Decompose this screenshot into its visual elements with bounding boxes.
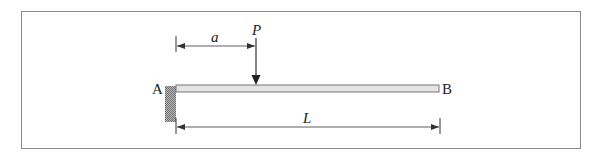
cantilever-diagram: A B a P L	[0, 0, 596, 157]
label-a-fixed-end: A	[152, 81, 163, 97]
beam	[176, 85, 439, 92]
label-a-distance: a	[211, 29, 219, 45]
load-arrow-icon	[252, 75, 261, 85]
label-b-free-end: B	[442, 81, 452, 97]
fixed-support-wall	[165, 86, 176, 122]
label-p-load: P	[251, 22, 261, 38]
label-l-length: L	[302, 110, 311, 126]
